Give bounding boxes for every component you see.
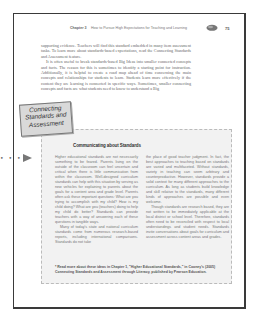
paragraph: It is often useful to break standards-ba… (41, 59, 191, 91)
apple-icon (206, 24, 218, 31)
callout-columns: Higher educational standards are not nec… (55, 155, 229, 245)
paragraph: Many of today's state and national curri… (55, 225, 138, 245)
paragraph: the place of good teacher judgment. In f… (146, 155, 229, 205)
margin-marker: • • • (0, 154, 32, 162)
callout-left-column: Higher educational standards are not nec… (55, 155, 138, 245)
book-page: Chapter 3 How to Pursue High Expectation… (13, 13, 246, 309)
connecting-standards-badge: Connecting Standards and Assessment (19, 101, 73, 137)
body-text: supporting evidence. Teachers will find … (41, 43, 191, 92)
chapter-title: How to Pursue High Expectations for Teac… (91, 26, 187, 30)
running-header: Chapter 3 How to Pursue High Expectation… (14, 23, 244, 33)
paragraph: supporting evidence. Teachers will find … (41, 43, 191, 59)
chapter-label: Chapter 3 (70, 26, 87, 30)
arrow-right-icon (23, 154, 32, 162)
dots: • • • (0, 154, 22, 161)
callout-right-column: the place of good teacher judgment. In f… (146, 155, 229, 245)
feature-callout-box: Communicating about Standards Higher edu… (41, 129, 232, 284)
page-number: 75 (225, 26, 229, 31)
paragraph: Though standards are research based, the… (146, 205, 229, 240)
callout-footnote: * Read more about these ideas in Chapter… (55, 265, 220, 274)
paragraph: Higher educational standards are not nec… (55, 155, 138, 225)
callout-heading: Communicating about Standards (73, 143, 141, 148)
